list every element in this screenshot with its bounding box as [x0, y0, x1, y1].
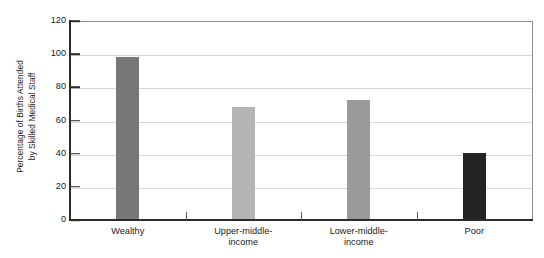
plot-area — [70, 21, 533, 221]
y-axis-tick-label: 80 — [38, 83, 66, 92]
bar — [347, 100, 370, 221]
y-axis-tick-label: 60 — [38, 116, 66, 125]
x-axis-category-labels: WealthyUpper-middle-incomeLower-middle-i… — [70, 226, 532, 258]
y-axis-spine — [69, 20, 71, 221]
x-axis-category-label-line: Upper-middle- — [186, 226, 302, 237]
x-axis-category-label-line: income — [186, 237, 302, 248]
bar — [232, 107, 255, 221]
x-axis-category-label: Wealthy — [70, 226, 186, 237]
bar — [463, 153, 486, 221]
x-axis-category-label-line: Wealthy — [70, 226, 186, 237]
y-axis-tick-label: 0 — [38, 215, 66, 224]
bar-chart-figure: Percentage of Births Attended by Skilled… — [0, 0, 544, 258]
y-axis-tick-label: 100 — [38, 50, 66, 59]
x-axis-category-label-line: Poor — [417, 226, 533, 237]
y-axis-title-line-2: by Skilled Medical Staff — [26, 60, 38, 173]
x-axis-spine — [69, 219, 533, 221]
x-axis-category-label-line: Lower-middle- — [301, 226, 417, 237]
y-axis-tick-label: 20 — [38, 182, 66, 191]
x-axis-category-label-line: income — [301, 237, 417, 248]
bar — [116, 57, 139, 221]
y-axis-tick-label: 40 — [38, 149, 66, 158]
x-axis-category-label: Lower-middle-income — [301, 226, 417, 249]
x-axis-category-label: Upper-middle-income — [186, 226, 302, 249]
y-axis-tick-label: 120 — [38, 16, 66, 25]
bar-series — [70, 22, 532, 221]
y-axis-tick-labels: 020406080100120 — [38, 0, 66, 258]
y-axis-title-line-1: Percentage of Births Attended — [15, 60, 27, 173]
x-axis-category-label: Poor — [417, 226, 533, 237]
